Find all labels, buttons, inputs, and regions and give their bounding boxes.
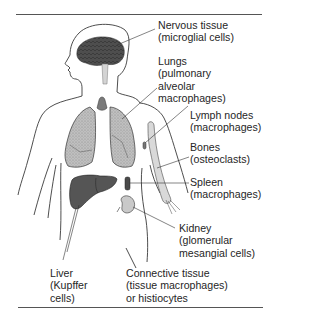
label-line: Kidney (179, 222, 211, 234)
label-bones: Bones (osteoclasts) (190, 141, 250, 166)
liver-icon (70, 175, 117, 209)
label-nervous-tissue: Nervous tissue (microglial cells) (158, 19, 234, 44)
label-line: (macrophages) (190, 121, 261, 133)
label-line: Bones (190, 141, 220, 153)
label-line: (microglial cells) (158, 31, 234, 43)
label-line: Connective tissue (126, 267, 210, 279)
label-line: (Kupffer (50, 279, 88, 291)
trachea-icon (97, 97, 107, 110)
label-line: Liver (50, 267, 73, 279)
label-line: (glomerular (179, 234, 233, 246)
label-lungs: Lungs (pulmonary alveolar macrophages) (158, 55, 226, 105)
label-line: cells) (50, 292, 75, 304)
label-line: (osteoclasts) (190, 153, 250, 165)
label-liver: Liver (Kupffer cells) (50, 267, 88, 304)
label-lymph-nodes: Lymph nodes (macrophages) (190, 109, 261, 134)
label-line: (tissue macrophages) (126, 279, 228, 291)
label-spleen: Spleen (macrophages) (190, 176, 261, 201)
label-line: Spleen (190, 176, 223, 188)
left-lung-icon (65, 107, 96, 167)
kidney-icon (121, 196, 135, 213)
label-line: alveolar (158, 80, 195, 92)
label-kidney: Kidney (glomerular mesangial cells) (179, 222, 255, 259)
label-line: mesangial cells) (179, 247, 255, 259)
label-line: (pulmonary (158, 67, 211, 79)
label-line: Lymph nodes (190, 109, 253, 121)
right-lung-icon (110, 107, 135, 167)
label-connective-tissue: Connective tissue (tissue macrophages) o… (126, 267, 228, 304)
label-line: (macrophages) (190, 188, 261, 200)
lymph-node-icon (143, 142, 146, 149)
label-line: Lungs (158, 55, 187, 67)
label-line: or histiocytes (126, 292, 188, 304)
brain-icon (77, 37, 124, 66)
label-line: macrophages) (158, 92, 226, 104)
bone-icon (148, 122, 171, 204)
spinal-cord-icon (102, 64, 108, 84)
label-line: Nervous tissue (158, 19, 228, 31)
spleen-icon (125, 177, 130, 190)
